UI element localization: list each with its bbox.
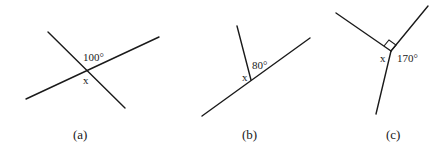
angle-label-170: 170°	[397, 52, 418, 64]
unknown-label-x: x	[380, 52, 386, 64]
figure-c: x 170° (c)	[336, 6, 428, 142]
caption-c: (c)	[386, 127, 400, 142]
caption-a: (a)	[73, 127, 87, 142]
unknown-label-x: x	[83, 74, 89, 86]
ray-c2	[391, 6, 428, 51]
ray-c1	[336, 13, 391, 51]
line-a1	[48, 32, 125, 108]
figure-b: 80° x (b)	[202, 26, 310, 142]
caption-b: (b)	[242, 127, 257, 142]
angle-label-100: 100°	[83, 51, 104, 63]
line-b	[202, 38, 310, 116]
figure-a: 100° x (a)	[26, 32, 159, 142]
angle-diagrams: 100° x (a) 80° x (b) x 170° (c)	[0, 0, 446, 154]
angle-label-80: 80°	[252, 59, 267, 71]
line-a2	[26, 37, 159, 99]
unknown-label-x: x	[242, 71, 248, 83]
right-angle-marker	[384, 40, 396, 51]
